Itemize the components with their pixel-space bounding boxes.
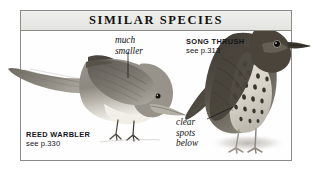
annotation-clear-spots-below: clear spots below [176, 117, 198, 149]
species-page-reference-reed-warbler[interactable]: see p.330 [26, 140, 90, 149]
panel-title-bar: SIMILAR SPECIES [20, 10, 292, 31]
species-page-reference-song-thrush[interactable]: see p.313 [186, 47, 244, 56]
species-name-song-thrush: SONG THRUSH [186, 38, 244, 46]
species-name-reed-warbler: REED WARBLER [26, 131, 90, 139]
similar-species-panel: SIMILAR SPECIES REED WARBLER see p.330 S… [0, 0, 313, 178]
page-title: SIMILAR SPECIES [89, 13, 223, 28]
species-label-reed-warbler: REED WARBLER see p.330 [26, 131, 90, 149]
annotation-much-smaller: much smaller [115, 35, 143, 56]
species-label-song-thrush: SONG THRUSH see p.313 [186, 38, 244, 56]
